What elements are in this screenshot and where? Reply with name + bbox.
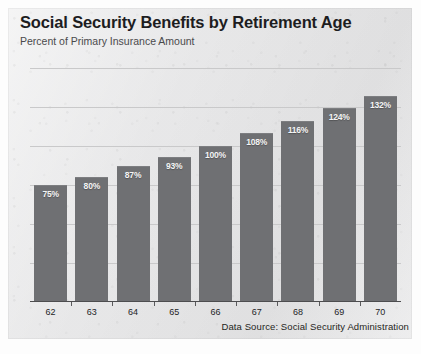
x-tick-label: 63 (71, 306, 112, 318)
bar[interactable]: 132% (364, 96, 397, 302)
bar-slot: 116% (277, 60, 318, 302)
bar-value-label: 108% (240, 137, 273, 147)
bar-value-label: 87% (117, 170, 150, 180)
bar-slot: 80% (71, 60, 112, 302)
bar-value-label: 80% (75, 181, 108, 191)
bar-value-label: 132% (364, 100, 397, 110)
bar-value-label: 116% (281, 125, 314, 135)
x-tick-label: 67 (236, 306, 277, 318)
bar-slot: 100% (195, 60, 236, 302)
x-tick-label: 69 (319, 306, 360, 318)
bar-value-label: 100% (199, 150, 232, 160)
bar-slot: 108% (236, 60, 277, 302)
plot-area: 75%80%87%93%100%108%116%124%132% (30, 60, 401, 302)
bar-slot: 75% (30, 60, 71, 302)
bar-value-label: 124% (323, 112, 356, 122)
bar[interactable]: 87% (117, 166, 150, 302)
chart-root: Social Security Benefits by Retirement A… (0, 0, 421, 354)
bar-value-label: 75% (34, 189, 67, 199)
x-tick-label: 66 (195, 306, 236, 318)
chart-subtitle: Percent of Primary Insurance Amount (20, 34, 390, 48)
x-axis-labels: 626364656667686970 (30, 306, 401, 318)
bar[interactable]: 124% (323, 108, 356, 302)
x-tick-label: 68 (277, 306, 318, 318)
bar[interactable]: 116% (281, 121, 314, 302)
bar[interactable]: 108% (240, 133, 273, 302)
bar[interactable]: 75% (34, 185, 67, 302)
x-tick-label: 62 (30, 306, 71, 318)
bar-slot: 93% (154, 60, 195, 302)
x-tick-label: 65 (154, 306, 195, 318)
bar-value-label: 93% (158, 161, 191, 171)
bar[interactable]: 100% (199, 146, 232, 302)
bar[interactable]: 80% (75, 177, 108, 302)
bar-slot: 87% (112, 60, 153, 302)
source-note: Data Source: Social Security Administrat… (221, 321, 409, 332)
x-tick-label: 64 (112, 306, 153, 318)
x-tick-label: 70 (360, 306, 401, 318)
chart-title: Social Security Benefits by Retirement A… (20, 12, 390, 32)
bar-slot: 124% (319, 60, 360, 302)
title-block: Social Security Benefits by Retirement A… (20, 12, 390, 48)
bar-slot: 132% (360, 60, 401, 302)
bar[interactable]: 93% (158, 157, 191, 302)
bar-series: 75%80%87%93%100%108%116%124%132% (30, 60, 401, 302)
